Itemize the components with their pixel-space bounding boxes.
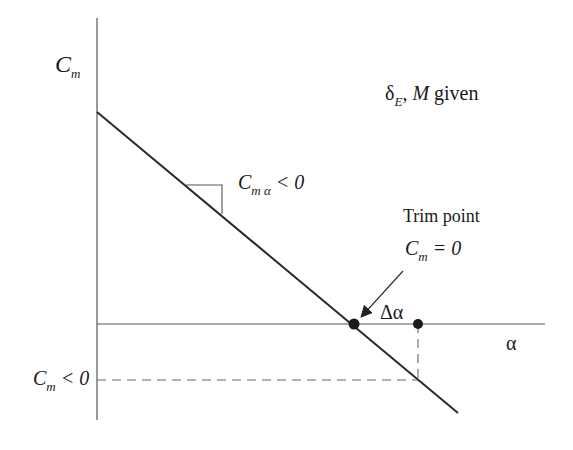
alpha-axis-label: α (506, 333, 516, 353)
cm-axis-label: Cm (55, 52, 80, 76)
trim-point-title: Trim point (403, 207, 480, 225)
trim-point-equation: Cm = 0 (405, 238, 461, 258)
given-label: δE, M given (385, 83, 479, 103)
trim-point-dot (349, 319, 360, 330)
delta-alpha-label: Δα (380, 302, 403, 322)
cm-alpha-line (97, 112, 458, 413)
diagram-canvas: Cm δE, M given Cm α < 0 Trim point Cm = … (0, 0, 573, 450)
slope-label: Cm α < 0 (238, 172, 304, 192)
cm-negative-label: Cm < 0 (33, 368, 89, 388)
perturbed-point-dot (413, 319, 423, 329)
slope-triangle (186, 185, 222, 214)
